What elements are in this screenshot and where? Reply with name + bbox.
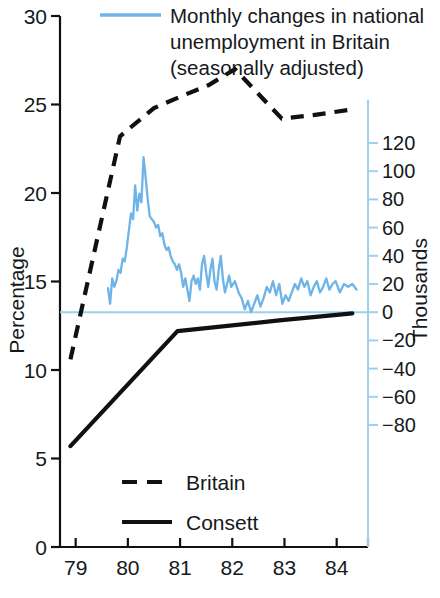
right-axis-tick-label: 120 xyxy=(382,132,415,154)
x-axis-tick-label: 81 xyxy=(168,556,191,579)
left-axis-tick-label: 0 xyxy=(35,536,47,559)
right-axis-tick-label: 20 xyxy=(382,273,404,295)
x-axis-tick-label: 83 xyxy=(273,556,296,579)
chart-figure: 051015202530 798081828384 12010080604020… xyxy=(0,0,440,598)
x-axis-tick-label: 79 xyxy=(64,556,87,579)
right-axis-tick-label: 60 xyxy=(382,217,404,239)
legend-label: Britain xyxy=(186,471,246,494)
right-axis-tick-label: 100 xyxy=(382,160,415,182)
note-line: unemployment in Britain xyxy=(170,30,390,53)
unemployment-line-chart: 051015202530 798081828384 12010080604020… xyxy=(0,0,440,598)
right-axis-title-text: Thousands xyxy=(408,238,431,342)
left-axis-tick-label: 25 xyxy=(24,93,47,116)
x-axis-tick-label: 80 xyxy=(116,556,139,579)
right-axis-tick-label: −40 xyxy=(382,358,416,380)
note-line: (seasonally adjusted) xyxy=(170,56,364,79)
right-axis-tick-label: −80 xyxy=(382,414,416,436)
right-axis-tick-label: 0 xyxy=(382,301,393,323)
chart-background xyxy=(0,0,440,598)
left-axis-tick-label: 10 xyxy=(24,359,47,382)
left-axis-title: Percentage xyxy=(5,246,28,353)
right-axis-title: Thousands xyxy=(408,238,431,342)
right-axis-tick-label: −60 xyxy=(382,386,416,408)
legend-label: Consett xyxy=(186,511,259,534)
left-axis-tick-label: 20 xyxy=(24,182,47,205)
right-axis-tick-label: 80 xyxy=(382,188,404,210)
left-axis-tick-label: 5 xyxy=(35,447,47,470)
left-axis-tick-label: 30 xyxy=(24,5,47,28)
right-axis-tick-label: 40 xyxy=(382,245,404,267)
x-axis-tick-label: 82 xyxy=(221,556,244,579)
x-axis-tick-label: 84 xyxy=(325,556,349,579)
note-line: Monthly changes in national xyxy=(170,4,424,27)
left-axis-title-text: Percentage xyxy=(5,246,28,353)
